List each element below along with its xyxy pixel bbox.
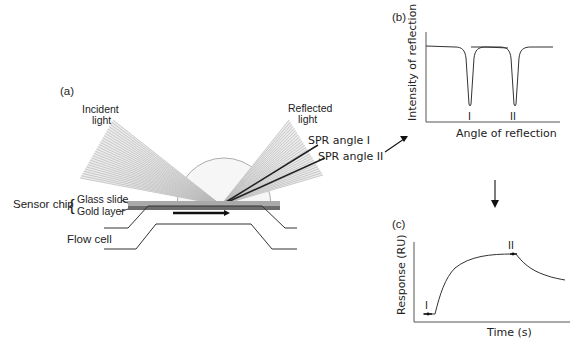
glass-slide-label: Glass slide [77, 193, 129, 205]
sensor-chip-label: Sensor chip [13, 198, 74, 210]
spr-angle-1-label: SPR angle I [308, 134, 370, 147]
spr-angle-2-label: SPR angle II [318, 150, 383, 163]
glass-slide [128, 201, 280, 206]
panel-b-xlabel: Angle of reflection [456, 127, 557, 140]
reflection-curve-1 [426, 46, 508, 106]
marker-1-dot [427, 313, 430, 316]
reflected-light-label-2: light [298, 113, 317, 125]
panel-b-tag: (b) [392, 11, 406, 23]
dip-1-label: I [468, 111, 471, 122]
marker-2-dot [512, 253, 515, 256]
flow-cell-lower [104, 224, 297, 249]
arrow-a-to-b [385, 139, 404, 152]
spr-diagram: (a) Incident light Reflected light SPR a… [0, 0, 587, 350]
flow-arrowhead-icon [224, 210, 230, 216]
dip-2-label: II [510, 111, 516, 122]
sensorgram-curve [423, 254, 565, 314]
panel-a-tag: (a) [60, 85, 74, 97]
incident-light-label-2: light [92, 114, 111, 126]
panel-a: (a) Incident light Reflected light SPR a… [13, 85, 383, 249]
panel-c-xlabel: Time (s) [486, 326, 532, 339]
sensor-chip-brace: { [69, 196, 75, 215]
panel-c-ylabel: Response (RU) [395, 234, 408, 315]
reflection-curve-2 [471, 47, 553, 106]
gold-layer [128, 206, 280, 210]
panel-b-axes [426, 32, 560, 122]
marker-1-label: I [425, 300, 428, 311]
gold-layer-label: Gold layer [77, 205, 125, 217]
panel-c-tag: (c) [392, 218, 406, 230]
arrow-b-to-c-head-icon [491, 200, 499, 208]
flow-cell-label: Flow cell [67, 233, 112, 245]
panel-b: (b) Intensity of reflection Angle of ref… [392, 4, 560, 140]
marker-2-label: II [508, 240, 514, 251]
panel-c-axes [414, 242, 570, 322]
panel-c: (c) Response (RU) Time (s) I II [392, 218, 570, 339]
panel-b-ylabel: Intensity of reflection [406, 4, 419, 121]
